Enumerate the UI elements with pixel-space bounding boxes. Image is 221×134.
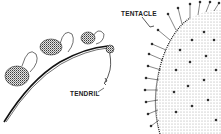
tentacle-label: TENTACLE: [121, 10, 157, 17]
illustration: TENTACLE TENDRIL: [0, 0, 221, 134]
tendril-label: TENDRIL: [70, 90, 100, 97]
tentacle-illustration: [0, 0, 221, 134]
